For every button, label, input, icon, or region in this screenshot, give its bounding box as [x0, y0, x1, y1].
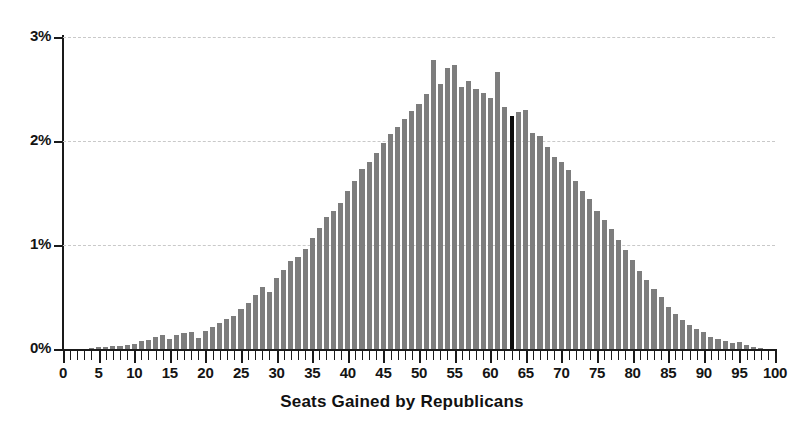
x-tick-26 — [248, 351, 249, 360]
x-tick-31 — [284, 351, 285, 360]
x-tick-60 — [490, 351, 492, 363]
histogram-bar — [708, 337, 713, 349]
x-tick-label-70: 70 — [553, 364, 569, 381]
x-tick-72 — [576, 351, 577, 360]
histogram-bar — [416, 104, 421, 349]
x-tick-64 — [519, 351, 520, 360]
x-tick-label-55: 55 — [447, 364, 463, 381]
x-tick-32 — [291, 351, 292, 360]
x-tick-36 — [319, 351, 320, 360]
x-tick-35 — [312, 351, 314, 363]
histogram-bar — [174, 335, 179, 349]
x-tick-90 — [704, 351, 706, 363]
y-tick-label-0%: 0% — [30, 339, 51, 356]
histogram-bar — [602, 220, 607, 349]
histogram-bar — [616, 240, 621, 349]
x-tick-94 — [732, 351, 733, 360]
histogram-bar — [352, 181, 357, 349]
histogram-bar — [167, 339, 172, 349]
x-tick-34 — [305, 351, 306, 360]
x-tick-42 — [362, 351, 363, 360]
x-tick-46 — [391, 351, 392, 360]
histogram-bar — [715, 339, 720, 349]
x-tick-47 — [398, 351, 399, 360]
x-tick-label-85: 85 — [660, 364, 676, 381]
histogram-bar — [466, 81, 471, 349]
histogram-bar — [374, 153, 379, 349]
x-tick-44 — [376, 351, 377, 360]
x-tick-86 — [675, 351, 676, 360]
x-tick-21 — [213, 351, 214, 360]
histogram-bar — [367, 162, 372, 349]
x-tick-label-65: 65 — [518, 364, 534, 381]
histogram-bar — [388, 134, 393, 349]
histogram-bar — [139, 341, 144, 349]
x-tick-99 — [768, 351, 769, 360]
histogram-bar — [210, 327, 215, 349]
x-tick-label-30: 30 — [269, 364, 285, 381]
histogram-bar — [488, 98, 493, 349]
histogram-bar — [288, 261, 293, 349]
histogram-bar — [566, 170, 571, 349]
x-tick-71 — [569, 351, 570, 360]
x-tick-label-80: 80 — [625, 364, 641, 381]
x-tick-85 — [668, 351, 670, 363]
x-tick-83 — [654, 351, 655, 360]
histogram-bar — [573, 181, 578, 349]
histogram-bar — [623, 250, 628, 349]
histogram-bar — [730, 343, 735, 349]
x-tick-14 — [163, 351, 164, 360]
histogram-bar — [502, 107, 507, 349]
x-tick-62 — [504, 351, 505, 360]
histogram-bar — [317, 228, 322, 349]
x-tick-24 — [234, 351, 235, 360]
histogram-bar — [673, 314, 678, 349]
histogram-bar — [723, 341, 728, 349]
x-tick-label-90: 90 — [696, 364, 712, 381]
histogram-chart: 0%1%2%3% 0510152025303540455055606570758… — [0, 0, 804, 439]
x-tick-68 — [547, 351, 548, 360]
y-tick-label-2%: 2% — [30, 131, 51, 148]
x-tick-37 — [326, 351, 327, 360]
x-tick-66 — [533, 351, 534, 360]
histogram-bar — [452, 65, 457, 349]
x-tick-77 — [611, 351, 612, 360]
x-tick-63 — [512, 351, 513, 360]
x-tick-88 — [690, 351, 691, 360]
histogram-bar — [281, 270, 286, 349]
x-tick-54 — [447, 351, 448, 360]
histogram-bar — [274, 278, 279, 349]
x-tick-97 — [754, 351, 755, 360]
x-tick-8 — [120, 351, 121, 360]
histogram-bar — [580, 191, 585, 349]
histogram-bar — [409, 111, 414, 349]
x-tick-5 — [99, 351, 101, 363]
histogram-bar — [89, 348, 94, 349]
x-tick-9 — [127, 351, 128, 360]
histogram-bar — [545, 147, 550, 349]
x-tick-49 — [412, 351, 413, 360]
x-tick-50 — [419, 351, 421, 363]
x-tick-30 — [277, 351, 279, 363]
histogram-bar — [181, 333, 186, 349]
x-tick-4 — [91, 351, 92, 360]
x-tick-15 — [170, 351, 172, 363]
x-tick-74 — [590, 351, 591, 360]
x-tick-53 — [440, 351, 441, 360]
histogram-bar — [189, 332, 194, 349]
x-axis-title: Seats Gained by Republicans — [0, 392, 804, 412]
x-tick-70 — [561, 351, 563, 363]
x-tick-80 — [633, 351, 635, 363]
x-tick-65 — [526, 351, 528, 363]
histogram-bar — [559, 162, 564, 349]
x-tick-6 — [106, 351, 107, 360]
x-tick-33 — [298, 351, 299, 360]
histogram-bar — [267, 292, 272, 349]
x-tick-7 — [113, 351, 114, 360]
x-tick-29 — [269, 351, 270, 360]
histogram-bar — [587, 199, 592, 349]
histogram-bar — [125, 345, 130, 349]
histogram-bar — [609, 229, 614, 349]
x-tick-93 — [725, 351, 726, 360]
histogram-bar — [253, 295, 258, 349]
